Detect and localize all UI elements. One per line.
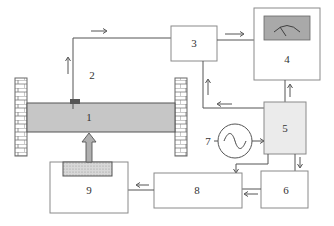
right-wall [175,78,187,156]
wire-controller-to-amplifier [295,154,303,171]
wire-driver-to-actuator [128,183,154,191]
force-arrow-icon [82,133,96,162]
amplifier-label: 6 [283,184,289,196]
controller-label: 5 [282,122,288,134]
meter-display [264,16,310,40]
wire-amplifier-to-driver [242,189,261,197]
actuator-head [63,162,112,176]
meter-label: 4 [284,53,290,65]
beam-label: 1 [86,111,92,123]
beam: 1 [27,103,175,132]
left-wall [15,78,27,156]
actuator-box: 9 [50,162,128,213]
driver-label: 8 [194,184,200,196]
diagram-canvas: 1 2 3 4 [0,0,334,226]
controller-box: 5 [264,102,306,154]
source-label: 7 [205,135,211,147]
amplifier-box: 6 [261,171,308,208]
ac-source: 7 [205,124,264,158]
driver-box: 8 [154,173,242,208]
wire-sensor-to-conditioner [66,29,172,100]
wire-controller-to-meter [285,80,293,102]
conditioner-label: 3 [191,37,197,49]
conditioner-box: 3 [171,26,217,61]
sensor-label: 2 [89,69,95,81]
wire-conditioner-to-meter [217,32,254,41]
meter-box: 4 [254,8,320,80]
actuator-label: 9 [86,184,92,196]
